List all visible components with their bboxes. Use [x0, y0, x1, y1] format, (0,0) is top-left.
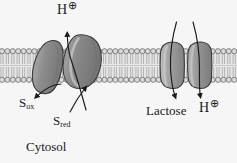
- proton-efflux-symbol: H: [57, 2, 67, 17]
- proton-influx-symbol: H: [199, 100, 209, 115]
- label-proton-efflux: H⊕: [57, 3, 76, 17]
- proton-efflux-charge-icon: ⊕: [68, 0, 77, 11]
- label-s-reduced: Sred: [53, 114, 71, 127]
- label-cytosol: Cytosol: [26, 140, 66, 153]
- label-proton-influx: H⊕: [199, 101, 218, 115]
- label-lactose: Lactose: [146, 104, 186, 117]
- electron-transport-complex-left-lobe: [32, 40, 63, 93]
- electron-transport-complex: [32, 35, 101, 94]
- membrane-transport-figure: H⊕ Sox Sred Lactose H⊕ Cytosol: [0, 0, 237, 163]
- s-oxidized-subscript: ox: [26, 102, 34, 111]
- label-s-oxidized: Sox: [19, 96, 34, 109]
- proton-influx-charge-icon: ⊕: [210, 97, 219, 109]
- s-reduced-subscript: red: [60, 120, 70, 129]
